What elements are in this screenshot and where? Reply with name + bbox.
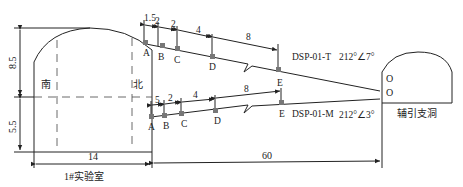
lower-point-c: C	[181, 119, 187, 129]
south-label: 南	[41, 78, 51, 90]
outlet-lower-label: O	[386, 87, 393, 98]
distance-label: 60	[262, 150, 272, 161]
upper-orientation: 212°∠7°	[339, 52, 375, 62]
outlet-upper-label: O	[386, 73, 393, 84]
left-chamber-name: 1#实验室	[64, 170, 104, 182]
lower-point-d: D	[214, 116, 221, 126]
lower-spacing-3: 4	[193, 90, 198, 100]
lower-orientation: 212°∠3°	[339, 110, 375, 120]
height-lower-label: 5.5	[7, 121, 18, 134]
upper-spacing-2: 2	[155, 16, 160, 26]
height-dimensions	[14, 28, 90, 152]
lower-spacing-1: 5	[155, 95, 160, 105]
lower-spacing-4: 8	[244, 84, 249, 94]
width-label: 14	[88, 151, 98, 162]
north-label: 北	[133, 79, 143, 90]
upper-spacing-5: 8	[246, 32, 251, 42]
left-chamber	[34, 28, 152, 152]
upper-point-d: D	[209, 62, 216, 72]
upper-point-b: B	[158, 52, 164, 62]
lower-point-a: A	[148, 122, 155, 132]
right-chamber-name: 辅引支洞	[397, 107, 437, 119]
height-upper-label: 8.5	[7, 57, 18, 70]
upper-point-a: A	[143, 48, 150, 58]
upper-spacing-4: 4	[196, 25, 201, 35]
upper-point-c: C	[174, 55, 180, 65]
upper-borehole-id: DSP-01-T	[292, 52, 331, 62]
lower-point-b: B	[163, 121, 169, 131]
upper-spacing-3: 2	[171, 19, 176, 29]
lower-spacing-2: 2	[168, 93, 173, 103]
tunnel-borehole-diagram: 8.5 5.5 南 北 14 60 1#实验室 辅引支洞 O O 1.5 2 2…	[0, 0, 463, 187]
lower-borehole-id: DSP-01-M	[292, 109, 334, 119]
lower-point-e-top: E	[277, 78, 283, 88]
lower-point-e: E	[279, 109, 285, 119]
